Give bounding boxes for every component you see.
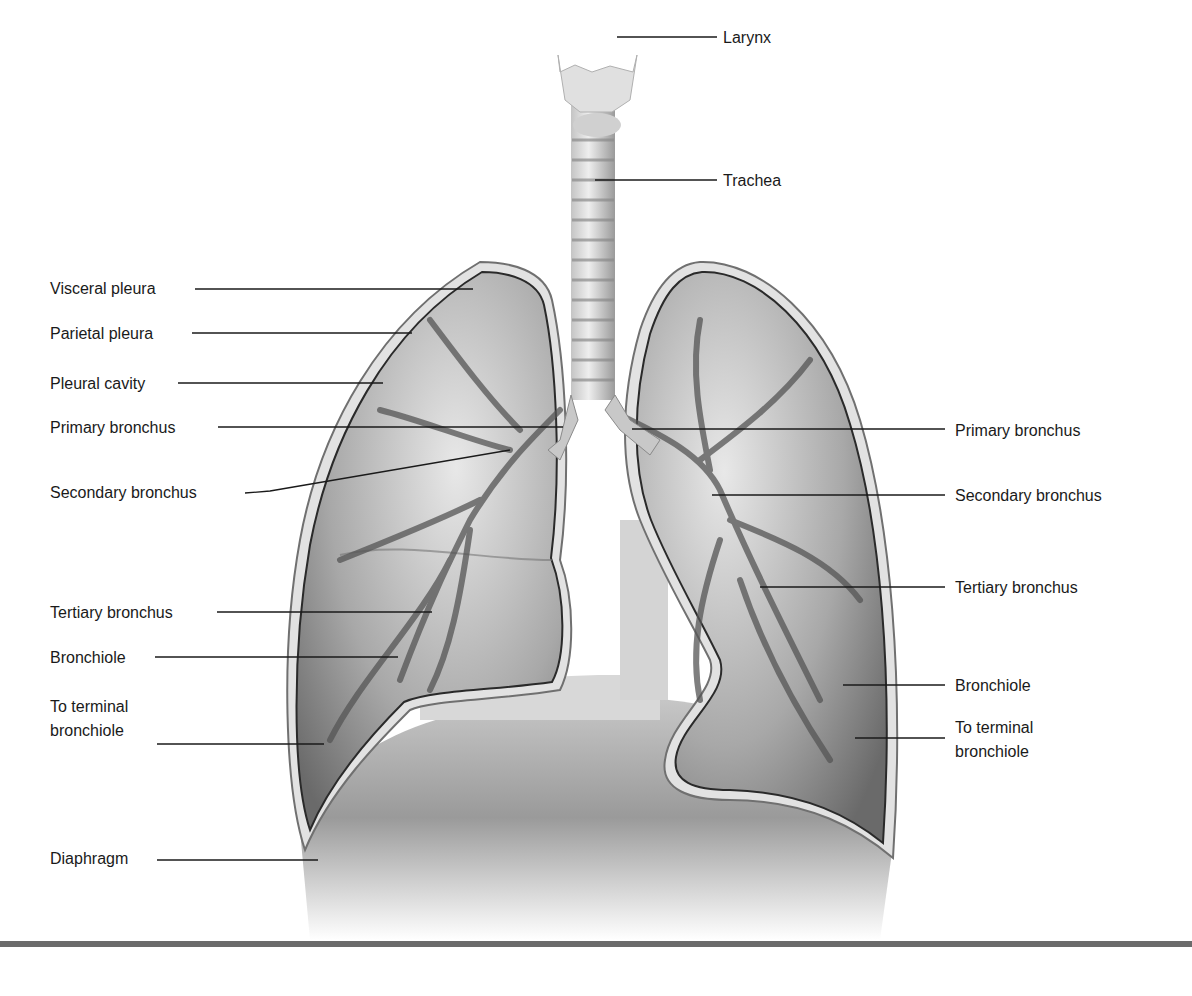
label-to-terminal-left-line1: To terminal bbox=[50, 697, 128, 716]
label-to-terminal-left-line2: bronchiole bbox=[50, 721, 124, 740]
label-secondary-bronchus-left: Secondary bronchus bbox=[50, 483, 197, 502]
label-to-terminal-right-line1: To terminal bbox=[955, 718, 1033, 737]
label-tertiary-bronchus-right: Tertiary bronchus bbox=[955, 578, 1078, 597]
label-bronchiole-right: Bronchiole bbox=[955, 676, 1031, 695]
label-primary-bronchus-left: Primary bronchus bbox=[50, 418, 175, 437]
label-bronchiole-left: Bronchiole bbox=[50, 648, 126, 667]
label-parietal-pleura: Parietal pleura bbox=[50, 324, 153, 343]
label-larynx: Larynx bbox=[723, 28, 771, 47]
label-visceral-pleura: Visceral pleura bbox=[50, 279, 156, 298]
label-pleural-cavity: Pleural cavity bbox=[50, 374, 145, 393]
label-to-terminal-right-line2: bronchiole bbox=[955, 742, 1029, 761]
label-secondary-bronchus-right: Secondary bronchus bbox=[955, 486, 1102, 505]
label-trachea: Trachea bbox=[723, 171, 781, 190]
bottom-divider bbox=[0, 941, 1192, 947]
label-diaphragm: Diaphragm bbox=[50, 849, 128, 868]
label-tertiary-bronchus-left: Tertiary bronchus bbox=[50, 603, 173, 622]
larynx bbox=[558, 55, 637, 137]
label-primary-bronchus-right: Primary bronchus bbox=[955, 421, 1080, 440]
